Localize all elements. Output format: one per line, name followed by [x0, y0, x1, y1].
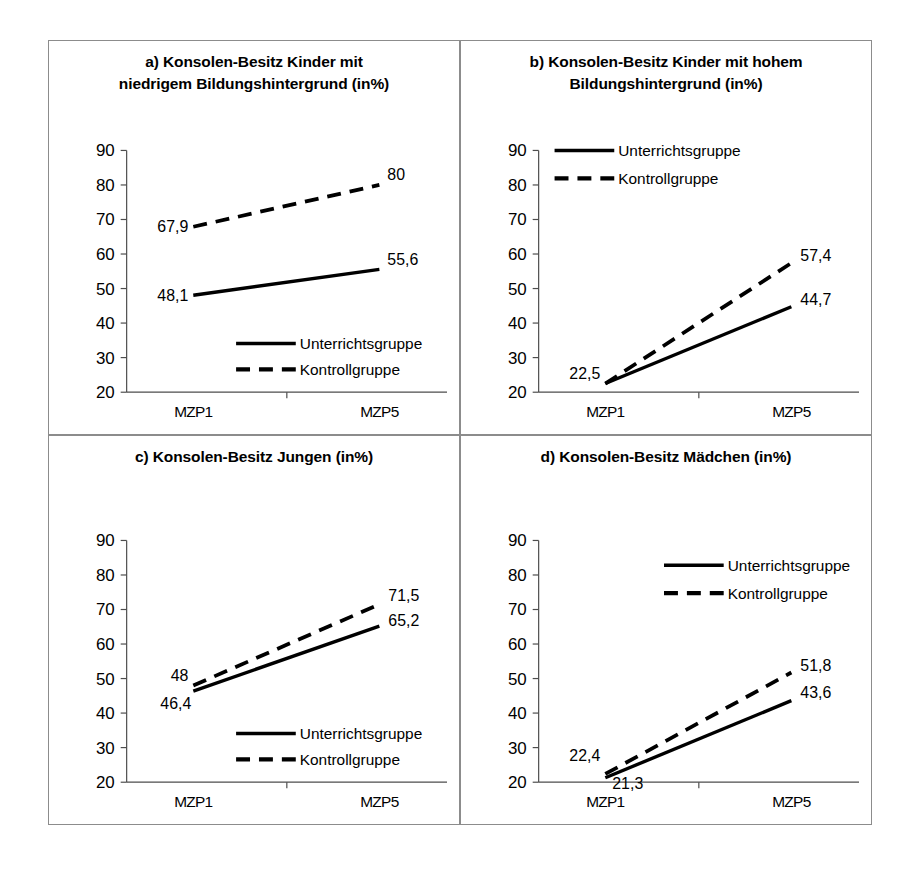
panel-b-ylabel-60: 60	[508, 245, 527, 264]
panel-c-point-label-unterricht-start: 46,4	[160, 695, 191, 712]
panel-c-ylabel-50: 50	[96, 670, 115, 689]
panel-b-ylabel-50: 50	[508, 280, 527, 299]
panel-d-ylabel-20: 20	[508, 773, 527, 792]
panel-b-xlabel-mzp1: MZP1	[586, 403, 624, 420]
panel-b-ylabel-90: 90	[508, 141, 527, 160]
panel-b-series-kontrollgruppe	[605, 263, 791, 384]
panel-a-ylabel-60: 60	[96, 245, 115, 264]
panel-d-ylabel-40: 40	[508, 704, 527, 723]
panel-c-ylabel-80: 80	[96, 566, 115, 585]
panel-a-plot: 90 80 70 60 50 40 30 20 MZP1 MZP5 67,9 8…	[49, 41, 459, 434]
panel-b-xlabel-mzp5: MZP5	[772, 403, 810, 420]
four-panel-line-chart-figure: a) Konsolen-Besitz Kinder mit niedrigem …	[0, 0, 911, 877]
panel-a-ylabel-40: 40	[96, 314, 115, 333]
panel-d-plot: 90 80 70 60 50 40 30 20 MZP1 MZP5 22,4 5…	[461, 436, 871, 824]
panel-a-point-label-kontroll-end: 80	[387, 166, 405, 183]
panel-a-ylabel-80: 80	[96, 176, 115, 195]
panel-b-ylabel-20: 20	[508, 383, 527, 402]
panel-d-point-label-kontroll-start: 22,4	[569, 747, 600, 764]
panel-b-plot: 90 80 70 60 50 40 30 20 MZP1 MZP5 22,5 5…	[461, 41, 871, 434]
panel-a-ylabel-90: 90	[96, 141, 115, 160]
panel-d: d) Konsolen-Besitz Mädchen (in%) 90 80 7…	[460, 435, 872, 825]
panel-c-xlabel-mzp1: MZP1	[174, 793, 212, 810]
panel-c-ylabel-30: 30	[96, 739, 115, 758]
panel-c-series-kontrollgruppe	[193, 604, 379, 685]
panel-c-point-label-unterricht-end: 65,2	[388, 612, 419, 629]
panel-d-ylabel-90: 90	[508, 531, 527, 550]
panel-c-point-label-kontroll-start: 48	[171, 667, 189, 684]
panel-d-ylabel-50: 50	[508, 670, 527, 689]
panel-d-point-label-kontroll-end: 51,8	[800, 657, 831, 674]
panel-a-ylabel-20: 20	[96, 383, 115, 402]
panel-c-ylabel-90: 90	[96, 531, 115, 550]
panel-c-point-label-kontroll-end: 71,5	[388, 587, 419, 604]
panel-a-ylabel-30: 30	[96, 349, 115, 368]
panel-c-ylabel-40: 40	[96, 704, 115, 723]
panel-d-series-unterrichtsgruppe	[605, 701, 791, 778]
panel-c-series-unterrichtsgruppe	[193, 626, 379, 691]
panel-d-xlabel-mzp1: MZP1	[586, 793, 624, 810]
panel-b: b) Konsolen-Besitz Kinder mit hohem Bild…	[460, 40, 872, 435]
panel-b-point-label-shared-start: 22,5	[569, 365, 600, 382]
panel-d-ylabel-30: 30	[508, 739, 527, 758]
panel-a-legend-label-kontrollgruppe: Kontrollgruppe	[300, 361, 400, 378]
panel-b-ylabel-70: 70	[508, 210, 527, 229]
panel-d-point-label-unterricht-end: 43,6	[800, 684, 831, 701]
panel-d-ylabel-70: 70	[508, 600, 527, 619]
panel-b-ylabel-30: 30	[508, 349, 527, 368]
panel-c: c) Konsolen-Besitz Jungen (in%) 90 80 70…	[48, 435, 460, 825]
panel-d-point-label-unterricht-start: 21,3	[612, 775, 643, 792]
panel-a-series-kontrollgruppe	[193, 185, 379, 227]
panel-a-point-label-unterricht-start: 48,1	[157, 287, 188, 304]
panel-d-series-kontrollgruppe	[605, 672, 791, 773]
panel-c-plot: 90 80 70 60 50 40 30 20 MZP1 MZP5 48 71,…	[49, 436, 459, 824]
panel-a-xlabel-mzp5: MZP5	[360, 403, 398, 420]
panel-c-ylabel-20: 20	[96, 773, 115, 792]
panel-c-ylabel-60: 60	[96, 635, 115, 654]
panel-b-legend-label-unterrichtsgruppe: Unterrichtsgruppe	[618, 142, 740, 159]
panel-a-point-label-kontroll-start: 67,9	[157, 218, 188, 235]
panel-d-xlabel-mzp5: MZP5	[772, 793, 810, 810]
panel-a-ylabel-70: 70	[96, 210, 115, 229]
panel-b-point-label-unterricht-end: 44,7	[800, 291, 831, 308]
panel-c-xlabel-mzp5: MZP5	[360, 793, 398, 810]
panel-b-ylabel-80: 80	[508, 176, 527, 195]
panel-c-legend-label-unterrichtsgruppe: Unterrichtsgruppe	[300, 725, 422, 742]
panel-a: a) Konsolen-Besitz Kinder mit niedrigem …	[48, 40, 460, 435]
panel-d-legend-label-kontrollgruppe: Kontrollgruppe	[728, 585, 828, 602]
panel-a-legend-label-unterrichtsgruppe: Unterrichtsgruppe	[300, 335, 422, 352]
panel-b-point-label-kontroll-end: 57,4	[800, 247, 831, 264]
panel-d-legend-label-unterrichtsgruppe: Unterrichtsgruppe	[728, 557, 850, 574]
panel-a-xlabel-mzp1: MZP1	[174, 403, 212, 420]
panel-c-legend-label-kontrollgruppe: Kontrollgruppe	[300, 751, 400, 768]
panel-b-legend-label-kontrollgruppe: Kontrollgruppe	[618, 170, 718, 187]
panel-d-ylabel-80: 80	[508, 566, 527, 585]
panel-b-ylabel-40: 40	[508, 314, 527, 333]
panel-b-series-unterrichtsgruppe	[605, 307, 791, 384]
panel-a-point-label-unterricht-end: 55,6	[387, 251, 418, 268]
panel-a-series-unterrichtsgruppe	[193, 269, 379, 295]
panel-d-ylabel-60: 60	[508, 635, 527, 654]
panel-c-ylabel-70: 70	[96, 600, 115, 619]
panel-a-ylabel-50: 50	[96, 280, 115, 299]
